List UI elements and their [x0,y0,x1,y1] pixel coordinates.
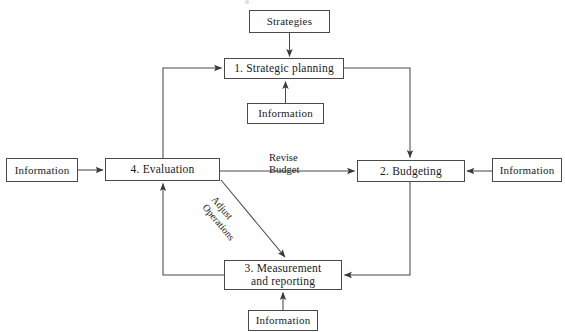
node-measurement-and-reporting-label: 3. Measurement and reporting [245,262,322,288]
edge-planning-to-budgeting [344,68,410,158]
node-information-right[interactable]: Information [492,158,562,182]
node-strategies[interactable]: Strategies [249,10,330,33]
node-information-right-label: Information [500,164,555,176]
edge-label-revise-budget: Revise Budget [269,152,299,177]
node-information-bottom-label: Information [256,314,311,326]
node-strategic-planning-label: 1. Strategic planning [234,62,334,75]
edge-label-adjust-operations: Adjust Operations [200,194,246,242]
node-budgeting[interactable]: 2. Budgeting [357,160,465,182]
node-information-top[interactable]: Information [247,103,324,124]
node-evaluation-label: 4. Evaluation [131,163,195,176]
node-information-left-label: Information [15,164,70,176]
node-information-bottom[interactable]: Information [248,310,318,331]
node-information-top-label: Information [258,107,313,119]
node-information-left[interactable]: Information [6,158,78,182]
edge-evaluation-to-planning [163,68,222,158]
edge-budgeting-to-measurement [345,182,411,275]
flow-diagram-canvas: Strategies 1. Strategic planning Informa… [0,0,565,332]
node-measurement-and-reporting[interactable]: 3. Measurement and reporting [224,260,342,290]
node-strategies-label: Strategies [267,15,312,27]
scan-artifact [245,0,249,4]
node-evaluation[interactable]: 4. Evaluation [105,158,220,181]
node-budgeting-label: 2. Budgeting [380,165,442,178]
node-strategic-planning[interactable]: 1. Strategic planning [224,58,344,79]
